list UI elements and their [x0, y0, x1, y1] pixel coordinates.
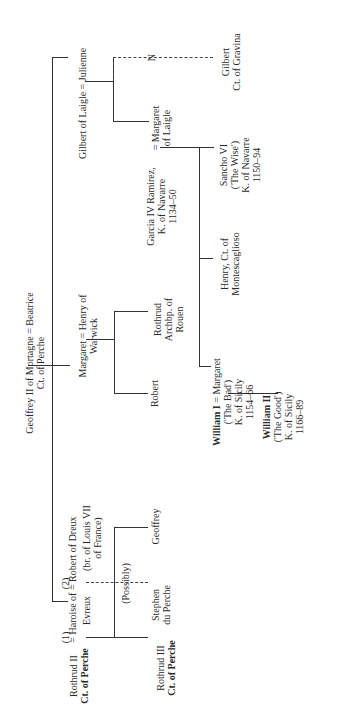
dates-line: 1166–89: [294, 382, 305, 452]
possibly-label: (Possibly): [120, 559, 131, 609]
dates-line: 1150–94: [251, 130, 262, 200]
person-rothrud-iii: Rothrud III Ct. of Perche: [155, 628, 177, 708]
title-line: K. of Sicily: [283, 382, 294, 452]
title-line: Ct. of Gravina: [231, 27, 242, 97]
name-line: Garcia IV Ramirez,: [145, 162, 156, 252]
person-gilbert-of-laigle: Gilbert of Laigle = Julienne: [77, 39, 88, 169]
name-line: Henry, Ct. of: [219, 224, 230, 304]
person-sancho-vi: Sancho VI ('The Wise') K. of Navarre 115…: [218, 130, 262, 200]
person-haroise-origin: Evreux: [81, 591, 92, 631]
dashed-connector: [113, 57, 114, 81]
person-haroise: = Haroise of = Robert of Dreux: [67, 500, 78, 660]
title-line: Evreux: [81, 591, 92, 631]
person-gilbert-gravina: Gilbert Ct. of Gravina: [220, 27, 242, 97]
title-line: Archbp. of: [163, 290, 174, 350]
note-line: of France): [92, 498, 103, 578]
connector-line: [52, 57, 68, 58]
person-geoffrey-ii: Geoffrey II of Mortagne = Beatrice Ct. o…: [24, 288, 46, 438]
title-line: du Perche: [161, 575, 172, 635]
n-marker: N: [146, 48, 157, 68]
dates-line: 1154–66: [244, 352, 255, 452]
name-line: Gilbert: [220, 27, 231, 97]
name-line: Rothrud: [152, 290, 163, 350]
person-rothrud-archbp: Rothrud Archbp. of Rouen: [152, 290, 185, 350]
name-line: William I = Margaret: [211, 352, 222, 452]
connector-line: [114, 637, 148, 638]
note-line: (br. of Louis VII: [81, 498, 92, 578]
connector-line: [114, 311, 148, 312]
epithet-line: ('The Wise'): [229, 130, 240, 200]
dashed-connector: [113, 57, 213, 58]
name-line: Stephen: [150, 575, 161, 635]
person-william-ii: William II ('The Good') K. of Sicily 116…: [261, 382, 305, 452]
n-label: N: [146, 48, 157, 68]
person-robert: Robert: [149, 374, 160, 414]
connector-line: [86, 637, 114, 638]
name-line: Gilbert of Laigle = Julienne: [77, 39, 88, 169]
epithet-line: ('The Bad'): [222, 352, 233, 452]
dashed-connector: [86, 582, 148, 583]
title-line: Warwick: [88, 286, 99, 386]
name-bold: William I: [211, 405, 222, 446]
epithet-line: ('The Good'): [272, 382, 283, 452]
name-line: Robert: [149, 374, 160, 414]
connector-line: [199, 258, 213, 259]
title-line: Ct. of Perche: [79, 641, 90, 711]
possibly-note: (Possibly): [120, 559, 131, 609]
title-line: Ct. of Perche: [35, 288, 46, 438]
name-line: Geoffrey: [150, 502, 161, 552]
title-line: K. of Sicily: [233, 352, 244, 452]
person-geoffrey: Geoffrey: [150, 502, 161, 552]
name-line: Sancho VI: [218, 130, 229, 200]
person-william-i: William I = Margaret ('The Bad') K. of S…: [211, 352, 255, 452]
title-line: Ct. of Perche: [166, 628, 177, 708]
dates-line: 1134–50: [167, 162, 178, 252]
sibling-bar: [52, 57, 53, 602]
name-line: Rothrud III: [155, 628, 166, 708]
title-line: Rouen: [174, 290, 185, 350]
connector-line: [113, 121, 149, 122]
sibling-bar: [199, 147, 200, 367]
sibling-bar: [114, 311, 115, 393]
person-garcia-iv: Garcia IV Ramirez, K. of Navarre 1134–50: [145, 162, 178, 252]
person-margaret-warwick: Margaret = Henry of Warwick: [77, 286, 99, 386]
name-line: = Margaret: [150, 98, 161, 158]
spouse: = Margaret: [211, 358, 222, 405]
title-line: K. of Navarre: [156, 162, 167, 252]
name-line: Geoffrey II of Mortagne = Beatrice: [24, 288, 35, 438]
name-line: Margaret = Henry of: [77, 286, 88, 386]
connector-line: [114, 393, 148, 394]
person-robert-dreux-note: (br. of Louis VII of France): [81, 498, 103, 578]
title-line: K. of Navarre: [240, 130, 251, 200]
person-stephen: Stephen du Perche: [150, 575, 172, 635]
title-line: of Laigle: [161, 98, 172, 158]
person-margaret-of-laigle: = Margaret of Laigle: [150, 98, 172, 158]
person-henry-montescaglioso: Henry, Ct. of Montescaglioso: [219, 224, 241, 304]
connector-line: [85, 81, 113, 82]
name-line: William II: [261, 382, 272, 452]
name-line: = Haroise of = Robert of Dreux: [67, 500, 78, 660]
title-line: Montescaglioso: [230, 224, 241, 304]
connector-line: [114, 527, 148, 528]
connector-line: [199, 366, 211, 367]
